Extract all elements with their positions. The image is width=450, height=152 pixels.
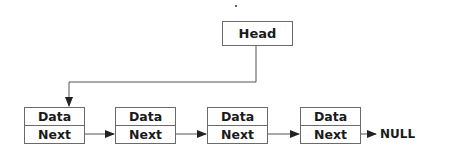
list-node-4: Data Next [300,107,361,144]
list-node-3: Data Next [207,107,268,144]
node-next-cell: Next [301,126,360,143]
node-data-cell: Data [208,108,267,126]
head-label: Head [239,26,277,41]
head-pointer-arrow [69,46,256,106]
node-data-cell: Data [116,108,175,126]
null-terminal-label: NULL [380,127,415,141]
list-node-1: Data Next [24,107,85,144]
node-data-cell: Data [25,108,84,126]
node-next-cell: Next [25,126,84,143]
list-node-2: Data Next [115,107,176,144]
node-data-cell: Data [301,108,360,126]
head-box: Head [222,21,293,46]
node-next-cell: Next [116,126,175,143]
node-next-cell: Next [208,126,267,143]
